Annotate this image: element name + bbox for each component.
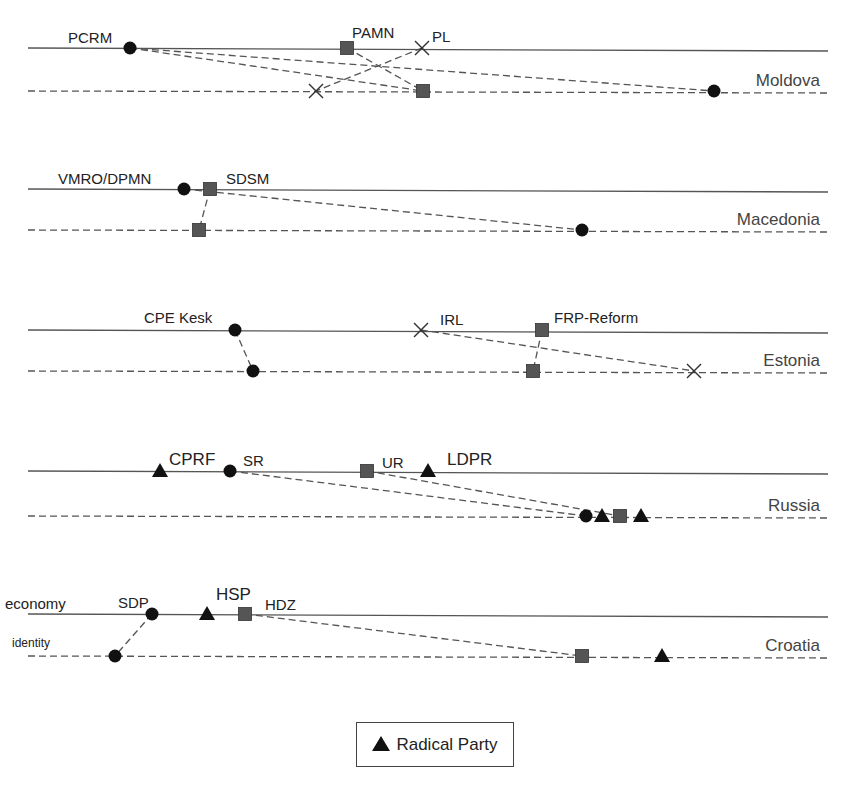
pamn-economy-square-marker-icon	[341, 42, 354, 55]
ldpr-identity-triangle-marker-icon	[633, 508, 649, 522]
cprf-economy-triangle-marker-icon	[152, 463, 168, 477]
party-label-ur: UR	[382, 454, 404, 471]
cpe-kesk-identity-circle-marker-icon	[247, 365, 260, 378]
party-label-frp-reform: FRP-Reform	[554, 309, 638, 326]
identity-axis-label: identity	[12, 636, 50, 650]
position-shift-link	[245, 614, 582, 656]
position-shift-link	[130, 48, 423, 91]
pcrm-economy-circle-marker-icon	[124, 42, 137, 55]
irl-economy-x-marker-icon	[414, 323, 428, 337]
position-shift-link	[235, 330, 253, 371]
frp-reform-identity-square-marker-icon	[527, 365, 540, 378]
party-label-hsp: HSP	[216, 585, 251, 604]
party-label-sdp: SDP	[118, 594, 149, 611]
country-panel-macedonia: MacedoniaVMRO/DPMNSDSM	[28, 170, 828, 237]
identity-axis-line	[28, 656, 828, 658]
hdz-economy-square-marker-icon	[239, 608, 252, 621]
position-shift-link	[421, 330, 694, 371]
sr-economy-circle-marker-icon	[224, 465, 237, 478]
pl-identity-x-marker-icon	[309, 84, 323, 98]
country-label: Russia	[768, 496, 821, 515]
country-panel-moldova: MoldovaPCRMPAMNPL	[28, 24, 828, 98]
sdp-identity-circle-marker-icon	[109, 650, 122, 663]
hdz-identity-square-marker-icon	[576, 650, 589, 663]
country-panel-estonia: EstoniaCPE KeskIRLFRP-Reform	[28, 309, 828, 378]
identity-axis-line	[28, 371, 828, 373]
country-label: Estonia	[763, 351, 820, 370]
ur-identity-square-marker-icon	[614, 510, 627, 523]
pl-economy-x-marker-icon	[415, 41, 429, 55]
position-shift-link	[115, 614, 152, 656]
hsp-identity-triangle-marker-icon	[654, 648, 670, 662]
party-label-pamn: PAMN	[352, 24, 394, 41]
country-label: Macedonia	[737, 210, 821, 229]
economy-axis-line	[28, 189, 828, 192]
cpe-kesk-economy-circle-marker-icon	[229, 324, 242, 337]
sdsm-economy-square-marker-icon	[204, 183, 217, 196]
party-label-sdsm: SDSM	[226, 170, 269, 187]
hsp-economy-triangle-marker-icon	[199, 606, 215, 620]
position-shift-link	[184, 189, 582, 230]
party-label-pl: PL	[432, 28, 450, 45]
pamn-identity-square-marker-icon	[417, 85, 430, 98]
cprf-identity-triangle-marker-icon	[594, 508, 610, 522]
position-shift-link	[230, 471, 586, 516]
pcrm-identity-circle-marker-icon	[708, 85, 721, 98]
vmro-dpmn-economy-circle-marker-icon	[178, 183, 191, 196]
triangle-marker-icon	[372, 736, 390, 751]
legend: Radical Party	[356, 722, 514, 767]
party-label-ldpr: LDPR	[447, 450, 492, 469]
country-label: Moldova	[756, 71, 821, 90]
country-panel-croatia: CroatiaSDPHSPHDZeconomyidentity	[5, 585, 828, 663]
party-label-cprf: CPRF	[169, 450, 215, 469]
vmro-dpmn-identity-circle-marker-icon	[576, 224, 589, 237]
identity-axis-line	[28, 516, 828, 518]
economy-axis-label: economy	[5, 595, 66, 612]
economy-axis-line	[28, 48, 828, 51]
position-shift-link	[347, 48, 423, 91]
irl-identity-x-marker-icon	[687, 364, 701, 378]
identity-axis-line	[28, 230, 828, 232]
position-shift-link	[316, 48, 422, 91]
party-label-pcrm: PCRM	[68, 29, 112, 46]
country-panel-russia: RussiaCPRFSRURLDPR	[28, 450, 828, 523]
ldpr-economy-triangle-marker-icon	[420, 463, 436, 477]
sr-identity-circle-marker-icon	[580, 510, 593, 523]
legend-label: Radical Party	[396, 735, 497, 755]
country-label: Croatia	[765, 636, 820, 655]
party-label-hdz: HDZ	[265, 596, 296, 613]
sdsm-identity-square-marker-icon	[193, 224, 206, 237]
ur-economy-square-marker-icon	[361, 465, 374, 478]
party-label-vmro-dpmn: VMRO/DPMN	[58, 170, 151, 187]
party-position-diagram: MoldovaPCRMPAMNPLMacedoniaVMRO/DPMNSDSME…	[0, 0, 855, 792]
party-label-sr: SR	[243, 452, 264, 469]
party-label-cpe-kesk: CPE Kesk	[144, 309, 213, 326]
frp-reform-economy-square-marker-icon	[536, 324, 549, 337]
party-label-irl: IRL	[440, 311, 463, 328]
